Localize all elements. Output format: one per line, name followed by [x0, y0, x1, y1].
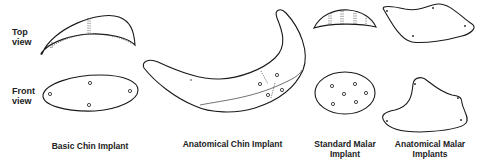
anatomical-malar-top-view	[383, 4, 474, 43]
caption-standard-malar-implant: Standard Malar Implant	[305, 139, 385, 159]
top-view-label-line2: view	[12, 37, 32, 47]
top-view-label-line1: Top	[12, 27, 32, 37]
caption-anatomical-chin-implant: Anatomical Chin Implant	[170, 139, 295, 149]
standard-malar-top-view	[314, 10, 376, 28]
caption-line: Standard Malar	[305, 139, 385, 149]
top-view-label: Top view	[12, 27, 32, 47]
anatomical-chin-implant	[143, 10, 305, 112]
caption-line: Anatomical Malar	[385, 139, 475, 149]
caption-line: Implant	[305, 149, 385, 159]
caption-line: Anatomical Chin Implant	[170, 139, 295, 149]
front-view-label: Front view	[12, 86, 35, 106]
basic-chin-front-view	[43, 75, 138, 111]
front-view-label-line1: Front	[12, 86, 35, 96]
caption-anatomical-malar-implants: Anatomical Malar Implants	[385, 139, 475, 159]
basic-chin-top-view	[41, 15, 135, 54]
caption-basic-chin-implant: Basic Chin Implant	[40, 141, 140, 151]
caption-line: Implants	[385, 149, 475, 159]
anatomical-malar-front-view	[383, 78, 468, 132]
caption-line: Basic Chin Implant	[40, 141, 140, 151]
standard-malar-front-view	[315, 72, 375, 114]
front-view-label-line2: view	[12, 96, 35, 106]
